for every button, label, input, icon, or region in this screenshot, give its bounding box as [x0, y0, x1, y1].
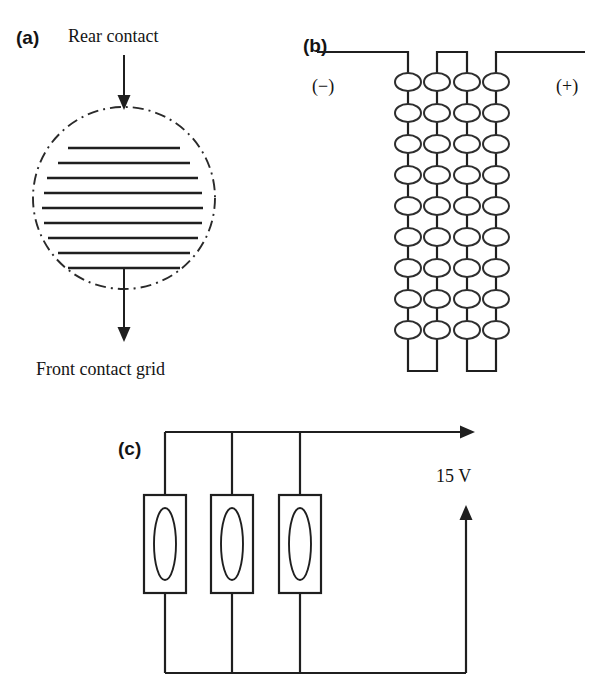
solar-cell [424, 197, 450, 215]
module-cell-symbol [221, 508, 243, 580]
module-3 [279, 495, 321, 593]
cell-column-3 [454, 73, 480, 339]
solar-cell [395, 290, 421, 308]
solar-cell [424, 321, 450, 339]
solar-cell [395, 73, 421, 91]
panel-c-voltage-label: 15 V [436, 466, 471, 486]
figure-canvas: (a) Rear contact [0, 0, 612, 699]
panel-b-group: (b) (−) (+) [303, 35, 585, 371]
solar-cell [395, 321, 421, 339]
module-cell-symbol [289, 508, 311, 580]
panel-c-tag: (c) [118, 438, 141, 459]
cell-column-1 [395, 73, 421, 339]
panel-a-tag: (a) [16, 27, 39, 48]
solar-cell [424, 104, 450, 122]
solar-cell [454, 228, 480, 246]
solar-cell [424, 228, 450, 246]
solar-cell [483, 228, 509, 246]
panel-a-rear-contact-label: Rear contact [68, 26, 158, 46]
module-1 [144, 495, 186, 593]
solar-cell [454, 321, 480, 339]
solar-cell [424, 73, 450, 91]
cell-column-4 [483, 73, 509, 339]
module-cell-symbol [154, 508, 176, 580]
panel-b-positive-terminal-label: (+) [556, 76, 578, 97]
solar-cell [395, 228, 421, 246]
solar-cell [395, 104, 421, 122]
panel-a-group: (a) Rear contact [16, 26, 215, 379]
solar-cell [424, 166, 450, 184]
figure-root: (a) Rear contact [0, 0, 612, 699]
solar-cell [483, 104, 509, 122]
wafer-outline-circle [33, 107, 215, 289]
cell-column-2 [424, 73, 450, 339]
solar-cell [483, 135, 509, 153]
panel-c-group: (c) [118, 426, 475, 674]
solar-cell [483, 166, 509, 184]
module-2 [211, 495, 253, 593]
solar-cell [454, 104, 480, 122]
solar-cell [395, 197, 421, 215]
front-contact-grid-fingers [42, 148, 203, 268]
solar-cell [483, 197, 509, 215]
panel-b-negative-terminal-label: (−) [312, 76, 334, 97]
solar-cell [395, 166, 421, 184]
solar-cell [424, 259, 450, 277]
rear-contact-arrow [118, 55, 131, 110]
solar-cell [454, 166, 480, 184]
solar-cell [395, 135, 421, 153]
solar-cell [483, 290, 509, 308]
front-contact-grid-arrow [118, 268, 131, 342]
panel-a-front-contact-grid-label: Front contact grid [36, 359, 165, 379]
solar-cell [424, 135, 450, 153]
solar-cell [454, 259, 480, 277]
solar-cell [483, 321, 509, 339]
return-current-arrow [460, 505, 473, 673]
output-current-arrow [165, 426, 475, 496]
solar-cell [454, 73, 480, 91]
solar-cell [454, 135, 480, 153]
solar-cell [454, 290, 480, 308]
solar-cell [424, 290, 450, 308]
solar-cell [483, 73, 509, 91]
solar-cell [395, 259, 421, 277]
solar-cell [483, 259, 509, 277]
solar-cell [454, 197, 480, 215]
